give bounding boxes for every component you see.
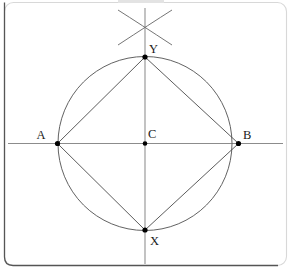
cropped-caption-remnant xyxy=(118,0,164,3)
construction-diagram-svg: A B C Y X xyxy=(0,0,291,270)
label-point-c: C xyxy=(148,127,156,141)
vertex-dot-x xyxy=(142,227,147,232)
chord-x-a xyxy=(58,144,146,231)
vertex-dot-a xyxy=(55,141,60,146)
label-point-a: A xyxy=(36,128,45,142)
label-point-x: X xyxy=(150,234,159,248)
vertex-dot-c xyxy=(143,141,148,146)
chord-a-y xyxy=(58,57,146,144)
vertex-dot-b xyxy=(236,141,241,146)
vertex-dot-y xyxy=(142,54,147,59)
label-point-b: B xyxy=(243,128,251,142)
geometry-figure: A B C Y X xyxy=(0,0,291,270)
label-point-y: Y xyxy=(149,42,158,56)
